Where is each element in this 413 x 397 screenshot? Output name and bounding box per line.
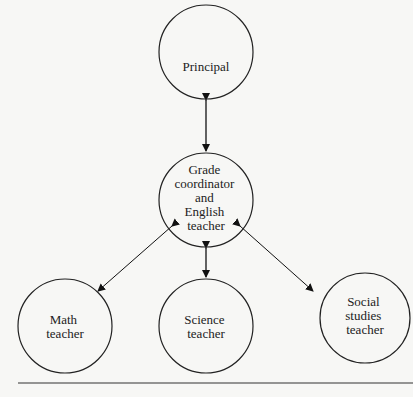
edge-grade-social (240, 226, 313, 291)
edge-grade-math (98, 226, 172, 291)
node-social-studies-teacher: Social studies teacher (320, 273, 410, 363)
node-principal: Principal (159, 5, 253, 99)
node-principal-label: Principal (183, 59, 230, 74)
org-diagram: Principal Grade coordinator and English … (0, 0, 413, 397)
node-math-teacher: Math teacher (18, 279, 112, 373)
node-math-label: Math teacher (46, 312, 84, 341)
node-science-teacher: Science teacher (159, 279, 253, 373)
node-social-label: Social studies teacher (345, 294, 384, 337)
node-grade-label: Grade coordinator and English teacher (174, 162, 237, 233)
node-grade-coordinator: Grade coordinator and English teacher (159, 153, 253, 247)
node-science-label: Science teacher (184, 312, 228, 341)
